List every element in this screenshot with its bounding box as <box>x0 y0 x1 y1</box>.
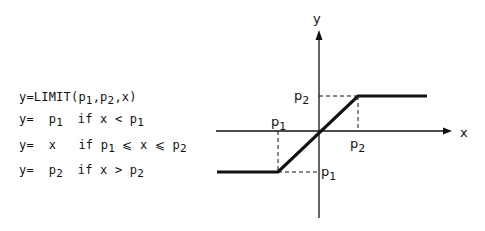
x-axis-label: x <box>460 125 468 140</box>
p2-y-label: p2 <box>294 88 309 107</box>
limit-function-graph: y x p2 p1 p2 p1 <box>0 0 485 231</box>
p2-x-label: p2 <box>350 136 365 155</box>
y-axis-label: y <box>313 11 321 26</box>
p1-x-label: p1 <box>271 114 286 133</box>
y-axis-arrow-icon <box>316 30 323 40</box>
x-axis-arrow-icon <box>443 128 452 135</box>
limit-curve <box>217 96 427 172</box>
p1-y-label: p1 <box>321 164 336 183</box>
